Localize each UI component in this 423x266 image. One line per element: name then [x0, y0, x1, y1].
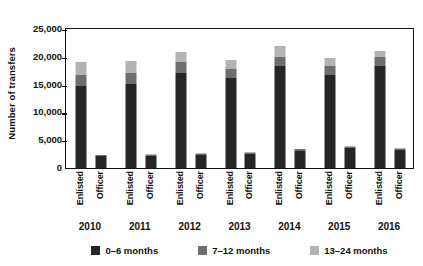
stacked-bar[interactable] — [175, 52, 186, 168]
x-category-label: Officer — [138, 171, 162, 219]
stacked-bar[interactable] — [375, 51, 386, 168]
x-category-label: Officer — [287, 171, 311, 219]
chart-legend: 0–6 months7–12 months13–24 months — [65, 241, 414, 259]
x-axis-category-labels: EnlistedOfficerEnlistedOfficerEnlistedOf… — [65, 171, 414, 219]
x-group-label: 2010 — [65, 221, 115, 232]
bar-segment — [245, 154, 256, 168]
plot-area — [65, 28, 414, 169]
stacked-bar[interactable] — [225, 60, 236, 168]
bar-segment — [125, 84, 136, 168]
legend-item-label: 13–24 months — [324, 245, 387, 256]
bar-segment — [325, 58, 336, 66]
x-category-label-text: Officer — [195, 171, 205, 199]
y-tick-mark — [62, 141, 67, 142]
x-category-label-text: Enlisted — [274, 171, 284, 205]
x-category-label-text: Officer — [244, 171, 254, 199]
bar-segment — [125, 73, 136, 84]
x-group-label: 2014 — [264, 221, 314, 232]
bar-segment — [125, 61, 136, 73]
bar-segment — [275, 46, 286, 57]
bar-segment — [175, 62, 186, 73]
bars-container — [66, 29, 413, 168]
bar-segment — [375, 51, 386, 58]
x-group-label: 2013 — [215, 221, 265, 232]
x-category-label-text: Officer — [95, 171, 105, 199]
x-axis-group-labels: 2010201120122013201420152016 — [65, 221, 414, 235]
y-tick-label: 10,000 — [16, 107, 62, 117]
y-tick-label: 20,000 — [16, 52, 62, 62]
bar-segment — [325, 66, 336, 75]
y-tick-mark — [62, 113, 67, 114]
x-category-label: Officer — [337, 171, 361, 219]
y-tick-label: 5,000 — [16, 135, 62, 145]
x-group-label: 2015 — [314, 221, 364, 232]
x-category-label: Officer — [188, 171, 212, 219]
x-group-label: 2011 — [115, 221, 165, 232]
stacked-bar[interactable] — [345, 146, 356, 168]
stacked-bar[interactable] — [145, 154, 156, 168]
stacked-bar[interactable] — [395, 148, 406, 168]
x-category-label-text: Enlisted — [225, 171, 235, 205]
x-category-label-text: Officer — [344, 171, 354, 199]
stacked-bar[interactable] — [95, 155, 106, 168]
legend-item[interactable]: 13–24 months — [310, 245, 387, 256]
bar-segment — [75, 75, 86, 86]
y-tick-label: 0 — [16, 163, 62, 173]
bar-segment — [95, 156, 106, 168]
x-category-label: Officer — [387, 171, 411, 219]
legend-color-swatch — [198, 246, 207, 255]
x-category-label-text: Officer — [394, 171, 404, 199]
x-category-label-text: Officer — [294, 171, 304, 199]
x-group-label: 2016 — [364, 221, 414, 232]
stacked-bar-chart: Number of transfers 05,00010,00015,00020… — [0, 0, 423, 266]
bar-segment — [225, 78, 236, 168]
y-axis-tick-labels: 05,00010,00015,00020,00025,000 — [14, 0, 62, 266]
legend-item-label: 7–12 months — [212, 245, 270, 256]
stacked-bar[interactable] — [245, 152, 256, 168]
bar-segment — [345, 148, 356, 168]
y-tick-mark — [62, 30, 67, 31]
stacked-bar[interactable] — [295, 149, 306, 168]
legend-color-swatch — [91, 246, 100, 255]
bar-segment — [175, 52, 186, 62]
bar-segment — [395, 150, 406, 168]
bar-segment — [75, 62, 86, 75]
stacked-bar[interactable] — [195, 153, 206, 168]
bar-segment — [145, 156, 156, 168]
legend-item[interactable]: 7–12 months — [198, 245, 270, 256]
y-tick-mark — [62, 86, 67, 87]
y-tick-mark — [62, 58, 67, 59]
bar-segment — [375, 66, 386, 168]
y-tick-label: 25,000 — [16, 24, 62, 34]
stacked-bar[interactable] — [125, 61, 136, 168]
legend-color-swatch — [310, 246, 319, 255]
stacked-bar[interactable] — [275, 46, 286, 168]
x-category-label-text: Enlisted — [374, 171, 384, 205]
x-category-label-text: Enlisted — [75, 171, 85, 205]
stacked-bar[interactable] — [325, 58, 336, 168]
bar-segment — [75, 86, 86, 168]
legend-item[interactable]: 0–6 months — [91, 245, 158, 256]
bar-segment — [275, 57, 286, 66]
bar-segment — [195, 155, 206, 168]
x-category-label-text: Enlisted — [125, 171, 135, 205]
x-group-label: 2012 — [165, 221, 215, 232]
x-category-label-text: Enlisted — [175, 171, 185, 205]
bar-segment — [225, 69, 236, 78]
bar-segment — [225, 60, 236, 68]
bar-segment — [375, 57, 386, 66]
stacked-bar[interactable] — [75, 62, 86, 168]
legend-item-label: 0–6 months — [105, 245, 158, 256]
x-category-label-text: Enlisted — [324, 171, 334, 205]
x-category-label: Officer — [237, 171, 261, 219]
y-tick-label: 15,000 — [16, 80, 62, 90]
bar-segment — [295, 151, 306, 168]
bar-segment — [325, 75, 336, 168]
x-category-label-text: Officer — [145, 171, 155, 199]
bar-segment — [275, 66, 286, 168]
bar-segment — [175, 73, 186, 168]
x-category-label: Officer — [88, 171, 112, 219]
